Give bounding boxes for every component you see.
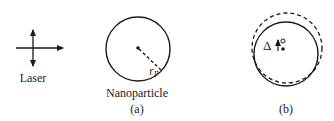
displaced-center-marker [281,39,285,43]
delta-symbol: Δ [263,38,271,54]
caption-a: (a) [130,102,143,117]
laser-label: Laser [20,71,47,86]
laser-polarization-icon [16,30,63,66]
original-center-dot [281,47,285,51]
caption-b: (b) [279,102,293,117]
nanoparticle-circle [106,17,170,81]
nanoparticle-label: Nanoparticle [106,86,168,101]
original-circle-solid [254,22,318,86]
